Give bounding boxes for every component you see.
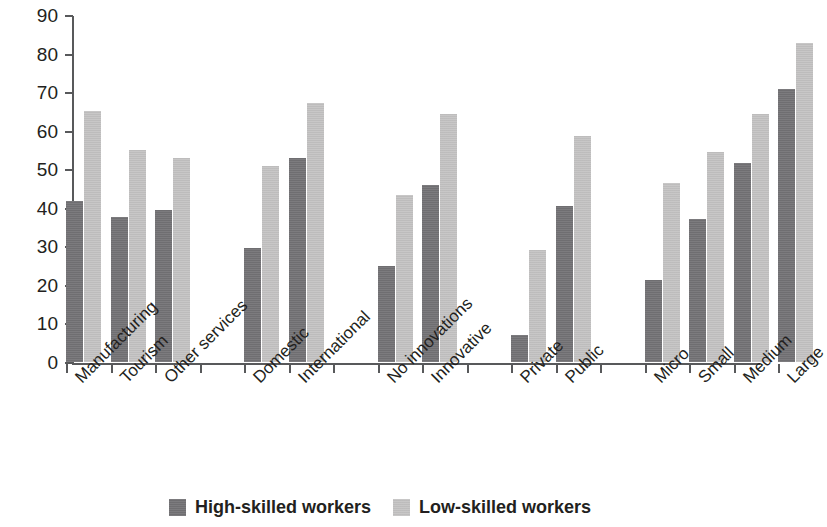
x-axis-tick: [556, 364, 558, 373]
x-axis-tick: [333, 364, 335, 373]
bar-low-skilled: [707, 152, 724, 362]
y-axis-tick-label: 0: [18, 353, 58, 372]
x-axis-tick: [689, 364, 691, 373]
x-axis-tick: [111, 364, 113, 373]
y-axis-tick: [65, 15, 73, 17]
bar-low-skilled: [396, 195, 413, 362]
bar-high-skilled: [778, 89, 795, 362]
legend-item: Low-skilled workers: [393, 498, 591, 516]
plot-area: [72, 16, 758, 363]
legend-swatch-high-skilled-icon: [169, 499, 186, 516]
y-axis-tick-label: 70: [18, 83, 58, 102]
y-axis-tick: [65, 131, 73, 133]
bar-low-skilled: [574, 136, 591, 362]
y-axis-tick: [65, 92, 73, 94]
x-axis-tick: [645, 364, 647, 373]
bar-high-skilled: [734, 163, 751, 362]
x-axis-tick: [511, 364, 513, 373]
bar-low-skilled: [262, 166, 279, 362]
x-axis-tick: [289, 364, 291, 373]
x-axis-tick: [66, 364, 68, 373]
bar-low-skilled: [307, 103, 324, 362]
bar-high-skilled: [511, 335, 528, 362]
y-axis-tick: [65, 54, 73, 56]
bar-low-skilled: [84, 111, 101, 362]
x-axis-tick: [378, 364, 380, 373]
legend-swatch-low-skilled-icon: [393, 499, 410, 516]
y-axis-tick-label: 60: [18, 122, 58, 141]
y-axis-tick-label: 30: [18, 237, 58, 256]
chart-legend: High-skilled workersLow-skilled workers: [0, 498, 760, 516]
legend-label: High-skilled workers: [195, 498, 371, 516]
bar-high-skilled: [645, 280, 662, 363]
y-axis-tick-label: 10: [18, 314, 58, 333]
x-axis-tick: [600, 364, 602, 373]
y-axis-tick-label: 20: [18, 276, 58, 295]
bar-low-skilled: [663, 183, 680, 362]
bar-low-skilled: [752, 114, 769, 362]
y-axis-tick-label: 50: [18, 160, 58, 179]
x-axis-tick: [734, 364, 736, 373]
y-axis-tick-label: 90: [18, 6, 58, 25]
y-axis-tick-label: 80: [18, 45, 58, 64]
bar-high-skilled: [66, 201, 83, 362]
legend-label: Low-skilled workers: [419, 498, 591, 516]
bar-low-skilled: [173, 158, 190, 362]
bar-high-skilled: [689, 219, 706, 362]
bar-low-skilled: [796, 43, 813, 362]
x-axis-tick: [467, 364, 469, 373]
y-axis-tick: [65, 169, 73, 171]
legend-item: High-skilled workers: [169, 498, 371, 516]
x-axis-tick: [200, 364, 202, 373]
x-axis-tick: [244, 364, 246, 373]
bar-high-skilled: [556, 206, 573, 362]
x-axis-tick: [155, 364, 157, 373]
x-axis-tick: [778, 364, 780, 373]
x-axis-tick: [422, 364, 424, 373]
y-axis-tick-label: 40: [18, 199, 58, 218]
bar-high-skilled: [378, 266, 395, 362]
